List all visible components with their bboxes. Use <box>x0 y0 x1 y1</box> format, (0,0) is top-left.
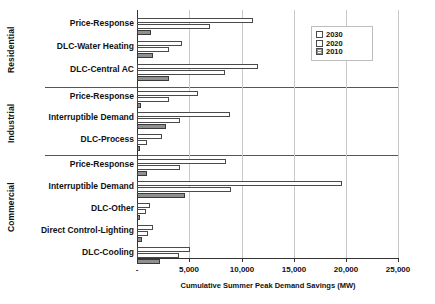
bar-2030 <box>137 225 153 230</box>
legend-swatch-icon <box>316 48 323 55</box>
x-tick-label: 5,000 <box>179 265 199 274</box>
bar-2030 <box>137 91 198 96</box>
category-label: Direct Control-Lighting <box>41 226 134 235</box>
bar-2020 <box>137 140 147 145</box>
category-label: DLC-Water Heating <box>57 42 134 51</box>
x-tick <box>398 258 399 262</box>
bar-2020 <box>137 70 225 75</box>
x-axis-title: Cumulative Summer Peak Demand Savings (M… <box>137 281 399 290</box>
gridline <box>242 10 243 258</box>
category-label: Interruptible Demand <box>49 113 134 122</box>
chart-container: Residential Industrial Commercial Price-… <box>0 0 435 304</box>
legend-label: 2020 <box>326 40 343 48</box>
legend-item-2030: 2030 <box>316 31 368 39</box>
bar-2020 <box>137 24 210 29</box>
category-label: Price-Response <box>70 19 134 28</box>
category-label: Interruptible Demand <box>49 182 134 191</box>
bar-2020 <box>137 187 231 192</box>
x-tick-label: - <box>136 265 139 274</box>
category-label: DLC-Cooling <box>82 248 134 257</box>
gridline <box>398 10 399 258</box>
bar-2010 <box>137 76 169 81</box>
bar-2010 <box>137 237 142 242</box>
bar-2010 <box>137 103 141 108</box>
x-tick-label: 20,000 <box>334 265 358 274</box>
category-label: DLC-Process <box>81 135 134 144</box>
bar-2010 <box>137 146 140 151</box>
category-label: Price-Response <box>70 92 134 101</box>
legend-label: 2010 <box>326 48 343 56</box>
bar-2030 <box>137 247 190 252</box>
bar-2030 <box>137 159 226 164</box>
legend-swatch-icon <box>316 40 323 47</box>
bar-2030 <box>137 41 182 46</box>
bar-2020 <box>137 231 148 236</box>
x-tick-label: 10,000 <box>230 265 254 274</box>
bar-2030 <box>137 64 258 69</box>
legend-swatch-icon <box>316 31 323 38</box>
bar-2010 <box>137 30 151 35</box>
bar-2030 <box>137 112 230 117</box>
category-label: Price-Response <box>70 160 134 169</box>
x-tick <box>294 258 295 262</box>
bar-2010 <box>137 259 160 264</box>
legend-item-2010: 2010 <box>316 48 368 56</box>
x-tick <box>189 258 190 262</box>
x-tick <box>137 258 138 262</box>
x-tick <box>346 258 347 262</box>
bar-2020 <box>137 118 180 123</box>
bar-2030 <box>137 18 253 23</box>
category-axis-labels: Price-Response DLC-Water Heating DLC-Cen… <box>0 0 134 258</box>
category-label: DLC-Other <box>91 204 134 213</box>
category-label: DLC-Central AC <box>70 65 134 74</box>
x-tick-label: 15,000 <box>282 265 306 274</box>
legend-label: 2030 <box>326 31 343 39</box>
bar-2020 <box>137 165 180 170</box>
bar-2030 <box>137 181 342 186</box>
bar-2010 <box>137 53 153 58</box>
bar-2010 <box>137 124 166 129</box>
legend: 2030 2020 2010 <box>311 26 373 61</box>
bar-2030 <box>137 134 162 139</box>
bar-2010 <box>137 193 185 198</box>
bar-2030 <box>137 203 150 208</box>
bar-2010 <box>137 215 140 220</box>
bar-2010 <box>137 171 147 176</box>
bar-2020 <box>137 47 169 52</box>
legend-item-2020: 2020 <box>316 40 368 48</box>
x-tick-label: 25,000 <box>386 265 410 274</box>
x-axis-line <box>137 258 399 259</box>
x-tick <box>242 258 243 262</box>
bar-2020 <box>137 209 146 214</box>
gridline <box>189 10 190 258</box>
bar-2020 <box>137 97 169 102</box>
gridline <box>294 10 295 258</box>
